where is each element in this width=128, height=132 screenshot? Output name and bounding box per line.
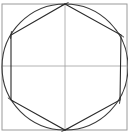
hexagon-construction-diagram xyxy=(0,0,128,132)
vertex-tick-marks xyxy=(8,3,124,132)
diagram-svg xyxy=(0,0,128,132)
inscribed-hexagon xyxy=(11,4,121,130)
